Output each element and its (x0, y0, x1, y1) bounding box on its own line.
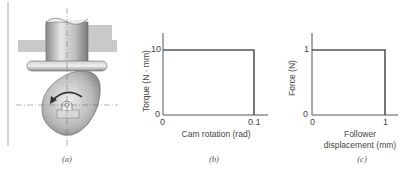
force-line (312, 50, 385, 115)
caption-c: (c) (350, 154, 374, 164)
x-tick-1: 1 (383, 117, 388, 127)
y-tick-1: 1 (304, 44, 309, 54)
x-axis-label-line1: Follower (310, 129, 410, 140)
y-tick-0: 0 (303, 109, 308, 119)
x-axis-label: Follower displacement (mm) (310, 129, 410, 151)
x-tick-0: 0 (310, 117, 315, 127)
x-axis-label-line2: displacement (mm) (310, 140, 410, 151)
y-axis-label: Force (N) (287, 60, 297, 96)
